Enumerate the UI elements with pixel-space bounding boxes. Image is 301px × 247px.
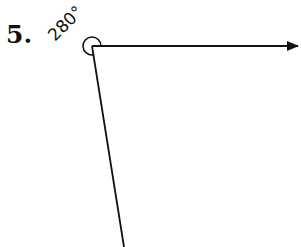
angle-diagram: 280° bbox=[0, 0, 301, 247]
angle-label: 280° bbox=[44, 2, 87, 45]
ray-down bbox=[92, 46, 124, 247]
